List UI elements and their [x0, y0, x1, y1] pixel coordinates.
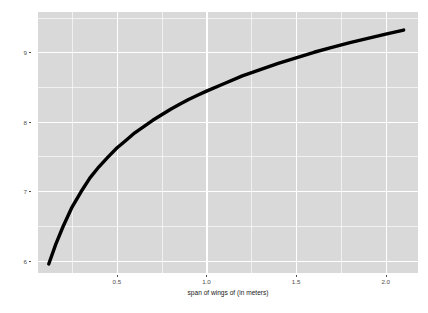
x-axis-ticks: 0.51.01.52.0	[38, 275, 418, 287]
y-tick-mark	[29, 52, 31, 53]
y-tick-label: 9	[24, 49, 27, 56]
x-tick-label: 2.0	[381, 278, 390, 285]
y-tick-mark	[29, 191, 31, 192]
chart-figure: 9876 0.51.01.52.0 speed of dragon (in km…	[0, 0, 428, 313]
x-tick-label: 0.5	[113, 278, 122, 285]
x-tick-label: 1.0	[202, 278, 211, 285]
y-tick-label: 6	[24, 257, 27, 264]
y-axis-ticks: 9876	[0, 12, 31, 273]
line-series-speed-of-dragon	[38, 12, 418, 273]
x-tick-mark	[206, 275, 207, 277]
plot-panel	[38, 12, 418, 273]
x-axis-title: span of wings of (in meters)	[38, 288, 418, 298]
curve-path	[49, 30, 404, 264]
y-tick-mark	[29, 261, 31, 262]
x-tick-mark	[296, 275, 297, 277]
y-tick-mark	[29, 122, 31, 123]
x-tick-mark	[117, 275, 118, 277]
y-tick-label: 8	[24, 118, 27, 125]
y-tick-label: 7	[24, 188, 27, 195]
x-tick-mark	[386, 275, 387, 277]
x-tick-label: 1.5	[292, 278, 301, 285]
